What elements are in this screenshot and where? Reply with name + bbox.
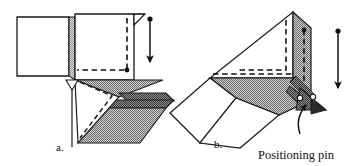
panel-b-hidden-node [302, 28, 307, 33]
panel-b: b. Positioning pin [170, 12, 341, 162]
panel-a-bend-band [69, 17, 75, 80]
forming-arrow-b [335, 28, 340, 88]
panel-a-flange-lower [107, 100, 174, 108]
panel-b-caption: b. [214, 138, 223, 150]
panel-a-corner-tab [134, 14, 145, 25]
positioning-pin-label: Positioning pin [258, 148, 335, 162]
panel-a-left-face [17, 17, 69, 76]
panel-a: a. [17, 14, 174, 153]
technical-figure: a. [0, 0, 364, 166]
positioning-pin-1 [297, 95, 302, 100]
positioning-pin-2 [310, 94, 315, 99]
panel-b-tool-wedge-2 [311, 100, 326, 114]
panel-b-top-face [210, 12, 293, 78]
forming-arrow-a [147, 16, 152, 62]
figure-canvas: a. [0, 0, 364, 166]
panel-a-caption: a. [56, 141, 64, 153]
panel-a-hidden-node [125, 68, 130, 73]
